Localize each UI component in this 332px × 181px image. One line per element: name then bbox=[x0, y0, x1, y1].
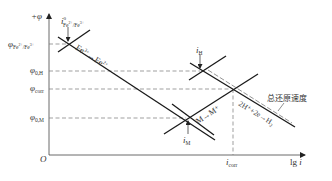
fe-reaction-label: Fe3+→Fe2+ bbox=[74, 42, 110, 70]
phi-corr-label: φcorr bbox=[30, 83, 44, 94]
i-M-label: iM bbox=[183, 135, 191, 146]
polarization-lines bbox=[58, 30, 295, 140]
i-H-label: iH bbox=[196, 45, 203, 56]
metal-reaction-label: M→M⁺ bbox=[194, 104, 221, 126]
potential-labels: φFe2+/Fe3+ φ0,H φcorr φ0,M bbox=[8, 39, 44, 123]
phi-fe-label: φFe2+/Fe3+ bbox=[8, 39, 35, 50]
origin-label: O bbox=[40, 154, 47, 164]
axes bbox=[49, 14, 305, 155]
guide-lines bbox=[49, 44, 233, 155]
h-anodic-line bbox=[189, 56, 226, 80]
i0-fe-label: i0Fe2+/Fe3+ bbox=[61, 16, 85, 28]
total-reduction-leader bbox=[278, 103, 284, 111]
y-axis-label: +φ bbox=[31, 11, 42, 21]
i-corr-label: icorr bbox=[226, 157, 238, 168]
phi-0H-label: φ0,H bbox=[30, 65, 43, 76]
x-axis-label: lg i bbox=[290, 157, 302, 167]
phi-0M-label: φ0,M bbox=[30, 112, 44, 123]
evans-diagram: +φ lg i O φFe2+/Fe3+ φ0,H φcorr φ0,M i0F… bbox=[0, 0, 332, 181]
total-reduction-annotation: 总还原速度 bbox=[267, 93, 307, 103]
current-labels: i0Fe2+/Fe3+ iH iM icorr bbox=[61, 16, 238, 168]
